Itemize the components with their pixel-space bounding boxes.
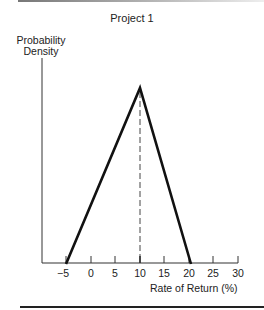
tick-label: 15 (158, 267, 170, 279)
tick-label: −5 (57, 267, 69, 279)
x-axis-label: Rate of Return (%) (150, 282, 238, 294)
tick-label: 20 (183, 267, 195, 279)
tick-label: 25 (207, 267, 219, 279)
bottom-rule (20, 306, 264, 308)
tick-label: 5 (112, 267, 118, 279)
triangular-density-line (66, 88, 191, 264)
x-axis-ticks (66, 256, 238, 263)
chart-plot: −5 0 5 10 15 20 25 30 (0, 0, 264, 310)
tick-label: 0 (88, 267, 94, 279)
x-axis-tick-labels: −5 0 5 10 15 20 25 30 (57, 267, 244, 279)
tick-label: 30 (232, 267, 244, 279)
tick-label: 10 (134, 267, 146, 279)
